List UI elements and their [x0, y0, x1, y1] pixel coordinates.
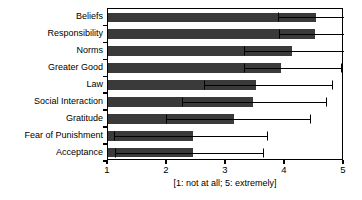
y-tick-mark — [103, 126, 107, 128]
error-bar-line — [204, 85, 333, 86]
x-tick-label: 3 — [222, 164, 227, 175]
error-bar-cap-high — [267, 131, 268, 140]
y-tick-mark — [103, 76, 107, 78]
error-bar-cap-low — [114, 131, 115, 140]
category-label: Norms — [77, 45, 104, 55]
error-bar-line — [244, 68, 341, 69]
bar-row — [108, 97, 342, 107]
x-axis-title: [1: not at all; 5: extremely] — [107, 178, 343, 188]
bar-row — [108, 114, 342, 124]
error-bar-cap-low — [244, 64, 245, 73]
bar-row — [108, 63, 342, 73]
x-tick-label: 5 — [340, 164, 345, 175]
y-tick-mark — [103, 92, 107, 94]
error-bar-line — [278, 17, 344, 18]
plot-area — [107, 8, 343, 160]
y-tick-mark — [103, 59, 107, 61]
error-bar-line — [166, 119, 310, 120]
category-label: Beliefs — [76, 11, 103, 21]
category-label: Fear of Punishment — [24, 130, 103, 140]
error-bar-cap-low — [278, 13, 279, 22]
error-bar-line — [114, 136, 267, 137]
error-bar-cap-high — [263, 148, 264, 157]
error-bar-cap-low — [279, 30, 280, 39]
bar-chart-figure: BeliefsResponsibilityNormsGreater GoodLa… — [0, 0, 362, 200]
category-label: Gratitude — [66, 113, 103, 123]
error-bar-cap-high — [332, 80, 333, 89]
error-bar-cap-low — [115, 148, 116, 157]
category-label: Greater Good — [48, 62, 103, 72]
error-bar-cap-low — [244, 47, 245, 56]
error-bar-cap-high — [310, 114, 311, 123]
error-bar-cap-high — [341, 64, 342, 73]
x-tick-label: 4 — [281, 164, 286, 175]
y-tick-mark — [103, 109, 107, 111]
category-label: Responsibility — [47, 28, 103, 38]
category-label: Acceptance — [56, 147, 103, 157]
bar-row — [108, 29, 342, 39]
x-tick-label: 1 — [104, 164, 109, 175]
category-label: Law — [86, 79, 103, 89]
error-bar-line — [115, 153, 263, 154]
error-bar-cap-low — [166, 114, 167, 123]
x-tick-label: 2 — [163, 164, 168, 175]
y-tick-mark — [103, 143, 107, 145]
error-bar-cap-low — [204, 80, 205, 89]
error-bar-cap-low — [182, 97, 183, 106]
category-axis-labels: BeliefsResponsibilityNormsGreater GoodLa… — [0, 8, 103, 160]
bar-row — [108, 148, 342, 158]
error-bar-line — [279, 34, 344, 35]
error-bar-line — [244, 51, 344, 52]
y-tick-mark — [103, 25, 107, 27]
bar-row — [108, 13, 342, 23]
category-label: Social Interaction — [34, 96, 103, 106]
bar-row — [108, 131, 342, 141]
y-tick-mark — [103, 42, 107, 44]
error-bar-line — [182, 102, 327, 103]
bar-row — [108, 80, 342, 90]
error-bar-cap-high — [326, 97, 327, 106]
bar-row — [108, 46, 342, 56]
